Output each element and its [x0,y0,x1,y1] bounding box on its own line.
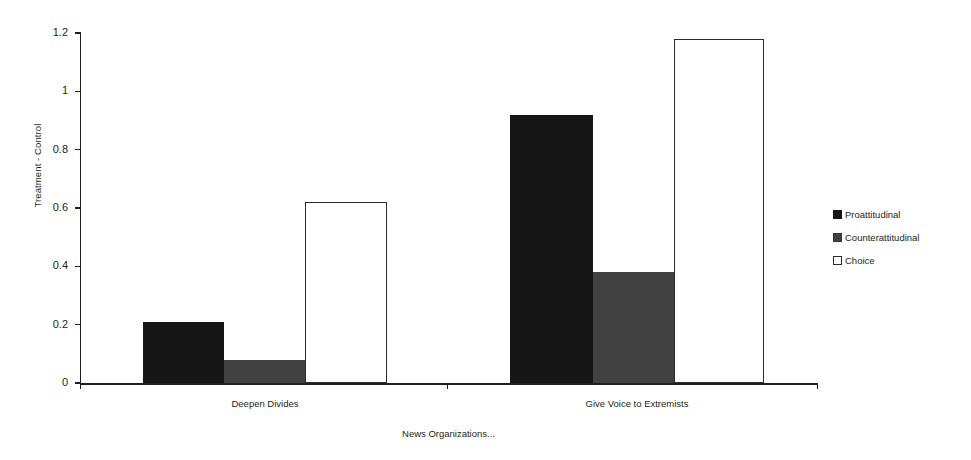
y-axis-tick-label: 0.2 [22,319,68,330]
legend-item-label: Choice [845,256,875,266]
bar-choice [674,39,764,383]
bar-proattitudinal [143,322,224,383]
x-axis-tick [817,383,818,389]
legend-item-label: Proattitudinal [845,210,900,220]
x-axis-tick [80,383,81,389]
x-axis-category-label: Give Voice to Extremists [527,398,747,409]
y-axis-tick [75,207,81,208]
x-axis-title: News Organizations... [80,428,817,439]
bar-counterattitudinal [593,272,674,383]
bar-choice [305,202,387,383]
legend-item-counterattitudinal[interactable]: Counterattitudinal [833,226,919,249]
legend-swatch-icon [833,256,842,265]
legend-item-choice[interactable]: Choice [833,249,919,272]
y-axis-tick [75,266,81,267]
legend-item-proattitudinal[interactable]: Proattitudinal [833,203,919,226]
bar-chart: Treatment - Control 1.210.80.60.40.20 De… [0,0,971,460]
x-axis-tick [447,383,448,389]
y-axis-tick-label: 0 [22,377,68,388]
y-axis-tick [75,149,81,150]
y-axis-tick-label: 1 [22,85,68,96]
y-axis-tick-label: 0.6 [22,202,68,213]
x-axis-category-label: Deepen Divides [155,398,375,409]
y-axis-tick [75,91,81,92]
legend-swatch-icon [833,233,842,242]
legend-item-label: Counterattitudinal [845,233,919,243]
y-axis-tick-label: 0.8 [22,144,68,155]
legend-swatch-icon [833,210,842,219]
y-axis-tick [75,32,81,33]
y-axis-tick-label: 0.4 [22,260,68,271]
x-axis-line [80,383,817,385]
bar-proattitudinal [510,115,593,383]
y-axis-tick [75,324,81,325]
bar-counterattitudinal [224,360,305,383]
chart-legend: ProattitudinalCounterattitudinalChoice [833,203,919,272]
y-axis-tick-label: 1.2 [22,27,68,38]
